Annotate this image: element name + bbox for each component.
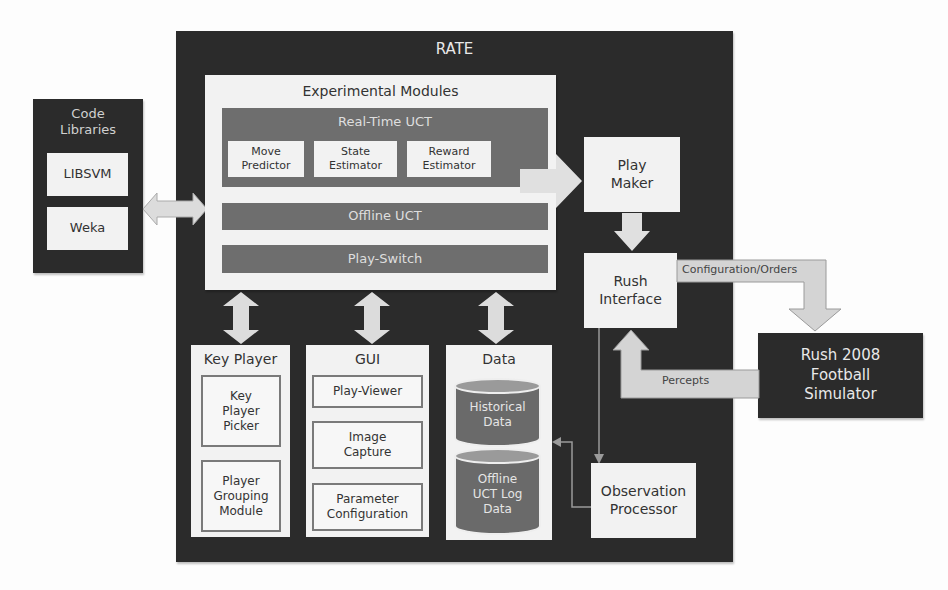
gui-panel: GUI Play-Viewer Image Capture Parameter … (306, 345, 429, 537)
thin-arrow-left-icon (552, 437, 592, 509)
play-maker-box: Play Maker (584, 137, 680, 212)
reward-estimator-box: Reward Estimator (407, 141, 491, 177)
double-arrow-vertical-icon (354, 292, 390, 344)
code-libraries-panel: Code Libraries LIBSVM Weka (33, 99, 143, 273)
libsvm-box: LIBSVM (47, 153, 128, 196)
data-title: Data (446, 349, 552, 369)
thin-arrow-down-icon (594, 328, 604, 464)
percepts-label: Percepts (662, 374, 709, 388)
code-libraries-title: Code Libraries (33, 103, 143, 141)
offline-uct-log-label: Offline UCT Log Data (454, 463, 541, 525)
weka-box: Weka (47, 207, 128, 250)
state-estimator-box: State Estimator (314, 141, 397, 177)
key-player-panel: Key Player Key Player Picker Player Grou… (191, 345, 290, 537)
observation-processor-box: Observation Processor (591, 463, 696, 538)
double-arrow-horizontal-icon (143, 191, 207, 227)
rate-title: RATE (176, 37, 733, 61)
arrow-down-icon (612, 213, 652, 253)
image-capture-box: Image Capture (312, 421, 423, 469)
parameter-configuration-box: Parameter Configuration (312, 483, 423, 531)
experimental-modules-title: Experimental Modules (205, 81, 556, 101)
experimental-modules-panel: Experimental Modules Real-Time UCT Move … (205, 75, 556, 290)
config-orders-label: Configuration/Orders (682, 263, 797, 277)
historical-data-label: Historical Data (454, 393, 541, 437)
offline-uct-box: Offline UCT (222, 203, 548, 230)
key-player-title: Key Player (191, 349, 290, 369)
real-time-uct-title: Real-Time UCT (222, 112, 548, 132)
key-player-picker-box: Key Player Picker (201, 375, 281, 447)
arrow-right-large-icon (520, 150, 584, 212)
play-switch-box: Play-Switch (222, 245, 548, 273)
data-panel: Data Historical Data Offline UCT Log Dat… (446, 345, 552, 540)
double-arrow-vertical-icon (478, 292, 514, 344)
double-arrow-vertical-icon (223, 292, 259, 344)
percepts-arrow-icon (613, 330, 759, 400)
rush-interface-box: Rush Interface (584, 253, 677, 328)
simulator-box: Rush 2008 Football Simulator (758, 333, 923, 418)
player-grouping-module-box: Player Grouping Module (201, 460, 281, 532)
play-viewer-box: Play-Viewer (312, 375, 423, 408)
real-time-uct-panel: Real-Time UCT Move Predictor State Estim… (222, 108, 548, 187)
move-predictor-box: Move Predictor (228, 141, 304, 177)
gui-title: GUI (306, 349, 429, 369)
